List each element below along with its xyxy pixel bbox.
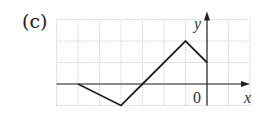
graph-curve	[78, 41, 207, 106]
origin-label: 0	[193, 89, 201, 106]
x-axis-label: x	[243, 89, 251, 106]
y-axis-label: y	[192, 15, 202, 33]
y-axis-arrow-icon	[204, 12, 210, 21]
x-axis-arrow-icon	[241, 81, 250, 87]
graph: yx0	[0, 0, 257, 140]
